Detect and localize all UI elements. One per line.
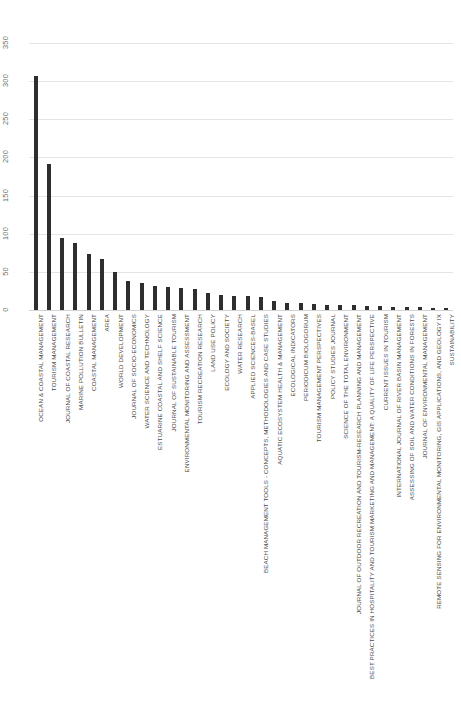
bar (166, 287, 170, 310)
bar (391, 307, 395, 310)
bar (179, 288, 183, 310)
category-label: OCEAN & COASTAL MANAGEMENT (38, 314, 44, 422)
bar (246, 296, 250, 310)
category-label: TOURISM MANAGEMENT PERSPECTIVES (316, 314, 322, 442)
category-label: BEST PRACTICES IN HOSPITALITY AND TOURIS… (369, 314, 375, 679)
bar (405, 307, 409, 310)
y-tick-label: 350 (1, 23, 10, 63)
bars-layer (29, 43, 453, 310)
y-tick-label: 100 (1, 213, 10, 253)
category-label: ECOLOGICAL INDICATORS (290, 314, 296, 396)
category-label: CURRENT ISSUES IN TOURISM (383, 314, 389, 410)
bar (47, 164, 51, 310)
category-label: JOURNAL OF SUSTAINABLE TOURISM (171, 314, 177, 431)
category-label: BEACH MANAGEMENT TOOLS - CONCEPTS, METHO… (263, 314, 269, 573)
category-label: SCIENCE OF THE TOTAL ENVIRONMENT (343, 314, 349, 439)
bar (272, 301, 276, 310)
category-label: JOURNAL OF COASTAL RESEARCH (65, 314, 71, 423)
bar (193, 289, 197, 310)
y-axis: 050100150200250300350 (0, 0, 29, 360)
bar (259, 297, 263, 310)
bar (285, 303, 289, 310)
y-tick-label: 0 (1, 290, 10, 330)
bar (60, 238, 64, 310)
bar (365, 306, 369, 310)
bar (87, 254, 91, 310)
bar (299, 303, 303, 310)
bar (126, 281, 130, 310)
bar (232, 296, 236, 310)
bar (153, 286, 157, 310)
bar (312, 304, 316, 310)
category-label: AQUATIC ECOSYSTEM HEALTH & MANAGEMENT (277, 314, 283, 465)
category-label: TOURISM RECREATION RESEARCH (197, 314, 203, 424)
category-label: COASTAL MANAGEMENT (91, 314, 97, 391)
bar (431, 308, 435, 310)
category-label: INTERNATIONAL JOURNAL OF RIVER BASIN MAN… (396, 314, 402, 498)
bar-chart: 050100150200250300350 OCEAN & COASTAL MA… (0, 0, 461, 717)
y-tick-label: 150 (1, 175, 10, 215)
bar (444, 308, 448, 310)
y-tick-label: 50 (1, 251, 10, 291)
category-label: WATER RESEARCH (237, 314, 243, 374)
category-label: AREA (104, 314, 110, 331)
category-label: PERIODICUM BIOLOGORUM (303, 314, 309, 401)
bar (73, 243, 77, 310)
category-label: POLICY STUDIES JOURNAL (330, 314, 336, 399)
bar (113, 272, 117, 310)
bar (378, 306, 382, 310)
category-label: ENVIRONMENTAL MONITORING AND ASSESSMENT (184, 314, 190, 472)
y-tick-label: 200 (1, 137, 10, 177)
category-label: MARINE POLLUTION BULLETIN (78, 314, 84, 410)
bar (418, 307, 422, 310)
category-label: REMOTE SENSING FOR ENVIRONMENTAL MONITOR… (436, 314, 442, 609)
y-tick-label: 300 (1, 61, 10, 101)
category-label: ESTUARINE COASTAL AND SHELF SCIENCE (157, 314, 163, 450)
category-label: LAND USE POLICY (210, 314, 216, 372)
category-label: ASSESSING OF SOIL AND WATER CONDITIONS I… (409, 314, 415, 500)
category-label: WORLD DEVELOPMENT (118, 314, 124, 388)
bar (219, 295, 223, 310)
category-label: SUSTAINABILITY (449, 314, 455, 366)
y-tick-label: 250 (1, 99, 10, 139)
bar (206, 293, 210, 310)
category-label: WATER SCIENCE AND TECHNOLOGY (144, 314, 150, 428)
category-label: APPLIED SCIENCES-BASEL (250, 314, 256, 399)
bar (140, 283, 144, 310)
category-label: ECOLOGY AND SOCIETY (224, 314, 230, 391)
bar (100, 259, 104, 310)
category-label: JOURNAL OF ENVIRONMENTAL MANAGEMENT (422, 314, 428, 459)
bar (338, 305, 342, 310)
category-label: TOURISM MANAGEMENT (51, 314, 57, 391)
gridline-0 (29, 310, 453, 311)
category-label: JOURNAL OF OUTDOOR RECREATION AND TOURIS… (356, 314, 362, 614)
category-label: JOURNAL OF SOCIO-ECONOMICS (131, 314, 137, 419)
bar (34, 76, 38, 310)
bar (352, 305, 356, 310)
bar (325, 305, 329, 310)
category-labels: OCEAN & COASTAL MANAGEMENTTOURISM MANAGE… (29, 314, 453, 714)
